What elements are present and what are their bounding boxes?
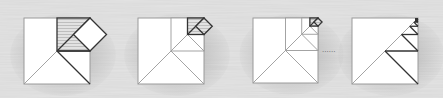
ellipsis-dots: ...... bbox=[322, 46, 335, 54]
diagram-stage: ...... bbox=[0, 0, 443, 98]
corner-mark bbox=[415, 18, 418, 22]
subdivision-diagram: ...... bbox=[0, 0, 443, 98]
